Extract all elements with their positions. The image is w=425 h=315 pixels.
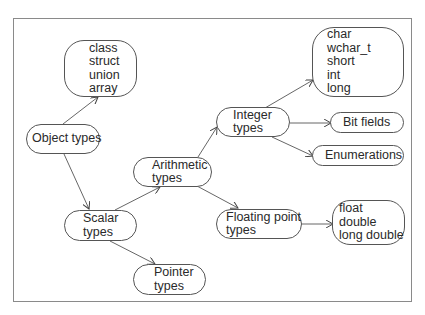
label-array: array xyxy=(89,82,136,96)
label-floating-point: Floating point xyxy=(226,211,301,225)
label-pointer-types: types xyxy=(154,280,205,294)
label-union: union xyxy=(89,69,136,83)
node-enumerations: Enumerations xyxy=(312,145,404,166)
label-integer: Integer xyxy=(233,109,289,123)
node-integer-types: Integer types xyxy=(216,107,290,137)
label-enumerations: Enumerations xyxy=(325,149,403,163)
label-short: short xyxy=(327,55,403,69)
edge-integer-enumerations xyxy=(272,137,313,156)
label-long: long xyxy=(327,82,403,96)
label-int: int xyxy=(327,69,403,83)
label-struct: struct xyxy=(89,55,136,69)
label-floating-types: types xyxy=(226,224,301,238)
label-double: double xyxy=(339,216,404,230)
node-object-types: Object types xyxy=(26,124,100,154)
label-char: char xyxy=(327,28,403,42)
label-bit-fields: Bit fields xyxy=(343,116,403,130)
label-object-types: Object types xyxy=(32,132,99,146)
node-aggregate-types: class struct union array xyxy=(64,40,137,97)
node-arithmetic-types: Arithmetic types xyxy=(133,157,212,187)
edge-scalar-arithmetic xyxy=(115,187,160,210)
edge-integer-kinds xyxy=(265,80,313,108)
node-pointer-types: Pointer types xyxy=(133,264,206,295)
node-floating-point-types: Floating point types xyxy=(216,209,302,239)
label-pointer: Pointer xyxy=(154,266,205,280)
label-scalar-types: types xyxy=(83,226,136,240)
edge-scalar-pointer xyxy=(110,241,155,264)
edge-object-aggregate xyxy=(63,97,98,124)
edge-arithmetic-integer xyxy=(198,127,217,157)
label-scalar: Scalar xyxy=(83,212,136,226)
node-bit-fields: Bit fields xyxy=(330,112,404,133)
edge-object-scalar xyxy=(64,154,89,209)
node-scalar-types: Scalar types xyxy=(64,210,137,241)
label-arithmetic-types: types xyxy=(152,172,211,186)
edge-arithmetic-floating xyxy=(197,186,238,208)
node-float-kinds: float double long double xyxy=(332,200,405,245)
label-integer-types: types xyxy=(233,122,289,136)
label-wchar-t: wchar_t xyxy=(327,42,403,56)
label-class: class xyxy=(89,42,136,56)
label-arithmetic: Arithmetic xyxy=(152,159,211,173)
node-integer-kinds: char wchar_t short int long xyxy=(312,27,404,97)
label-long-double: long double xyxy=(339,229,404,243)
label-float: float xyxy=(339,202,404,216)
